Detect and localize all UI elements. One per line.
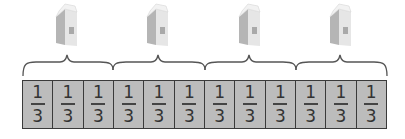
fraction-cell: 13 — [23, 81, 53, 128]
numerator: 1 — [184, 84, 195, 101]
fraction-line — [273, 103, 287, 105]
fraction-bar: 13 13 13 13 13 13 13 13 13 13 13 13 — [22, 80, 387, 129]
denominator: 3 — [366, 108, 377, 125]
brace-icon — [296, 55, 387, 76]
fraction-cell: 13 — [53, 81, 83, 128]
fraction-cell: 13 — [84, 81, 114, 128]
fraction-line — [61, 103, 75, 105]
fraction-cell: 13 — [205, 81, 235, 128]
numerator: 1 — [123, 84, 134, 101]
numerator: 1 — [366, 84, 377, 101]
brace-icon — [205, 55, 296, 70]
denominator: 3 — [154, 108, 165, 125]
numerator: 1 — [32, 84, 43, 101]
numerator: 1 — [63, 84, 74, 101]
denominator: 3 — [63, 108, 74, 125]
fraction-line — [304, 103, 318, 105]
denominator: 3 — [184, 108, 195, 125]
numerator: 1 — [93, 84, 104, 101]
numerator: 1 — [154, 84, 165, 101]
denominator: 3 — [275, 108, 286, 125]
denominator: 3 — [245, 108, 256, 125]
brace-icon — [113, 55, 205, 70]
numerator: 1 — [245, 84, 256, 101]
fraction-line — [243, 103, 257, 105]
fraction-line — [213, 103, 227, 105]
fraction-cell: 13 — [175, 81, 205, 128]
denominator: 3 — [214, 108, 225, 125]
fraction-cell: 13 — [235, 81, 265, 128]
fraction-line — [364, 103, 378, 105]
fraction-cell: 13 — [266, 81, 296, 128]
fraction-cell: 13 — [357, 81, 386, 128]
fraction-line — [31, 103, 45, 105]
fraction-line — [152, 103, 166, 105]
fraction-cell: 13 — [144, 81, 174, 128]
denominator: 3 — [305, 108, 316, 125]
fraction-diagram: 13 13 13 13 13 13 13 13 13 13 13 13 — [0, 0, 405, 139]
numerator: 1 — [336, 84, 347, 101]
fraction-cell: 13 — [326, 81, 356, 128]
fraction-line — [91, 103, 105, 105]
denominator: 3 — [93, 108, 104, 125]
numerator: 1 — [214, 84, 225, 101]
brace-icon — [23, 55, 113, 76]
fraction-line — [334, 103, 348, 105]
numerator: 1 — [275, 84, 286, 101]
fraction-cell: 13 — [114, 81, 144, 128]
fraction-cell: 13 — [296, 81, 326, 128]
numerator: 1 — [305, 84, 316, 101]
denominator: 3 — [32, 108, 43, 125]
fraction-line — [182, 103, 196, 105]
denominator: 3 — [336, 108, 347, 125]
denominator: 3 — [123, 108, 134, 125]
fraction-line — [122, 103, 136, 105]
